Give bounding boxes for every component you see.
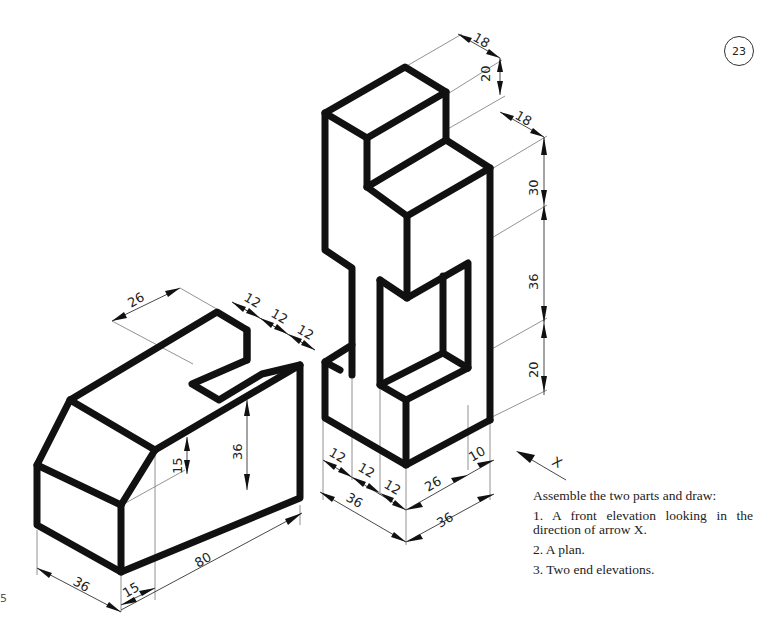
dim-right-window-width: 26 [422, 473, 444, 494]
dim-slot-offset: 26 [125, 289, 147, 310]
dim-upper-height: 30 [526, 179, 541, 196]
dim-block-width: 36 [71, 574, 93, 595]
page-number-badge: 23 [724, 36, 754, 66]
instructions-block: Assemble the two parts and draw: 1. A fr… [533, 489, 753, 583]
block-bottom-dimensions: 36 15 80 [37, 513, 302, 612]
instruction-item: 2. A plan. [533, 543, 753, 557]
dim-block-length: 80 [192, 549, 214, 570]
dim-block-height: 36 [230, 443, 245, 460]
instruction-item: 1. A front elevation looking in the dire… [533, 509, 753, 537]
upright-extension-lines [323, 34, 547, 545]
dim-chamfer-depth: 15 [120, 579, 142, 600]
block-top-dimensions: 26 12 12 12 [112, 288, 316, 350]
instruction-item: 3. Two end elevations. [533, 563, 753, 577]
dim-top-step-depth: 18 [471, 30, 493, 51]
block-vertical-dimensions: 15 36 [170, 400, 250, 490]
direction-arrow-x: X [516, 451, 566, 480]
upright-part: 20 30 36 20 18 18 [320, 30, 547, 545]
dim-window-height: 36 [526, 273, 541, 290]
dim-base-height: 20 [526, 361, 541, 378]
dim-top-step-height: 20 [478, 65, 493, 82]
upright-outline [325, 67, 490, 465]
arrow-x-label: X [550, 454, 565, 471]
instructions-heading: Assemble the two parts and draw: [533, 489, 753, 503]
dim-chamfer-height: 15 [170, 457, 185, 474]
dim-second-step-depth: 18 [513, 108, 535, 129]
dim-right-side: 10 [466, 443, 488, 464]
block-part: 26 12 12 12 15 36 [37, 288, 316, 612]
dim-left-width-3: 12 [382, 477, 404, 498]
dim-left-width-2: 12 [356, 460, 378, 481]
dim-right-total: 36 [434, 509, 456, 530]
margin-mark: 5 [0, 592, 7, 605]
